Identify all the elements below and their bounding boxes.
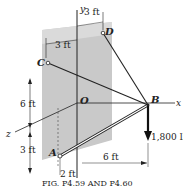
x-axis-label: x	[176, 98, 181, 108]
label-D: D	[104, 26, 114, 37]
dim-top-left: 3 ft	[55, 40, 71, 50]
figure-caption: FIG. P4.59 AND P4.60	[42, 179, 133, 187]
label-C: C	[37, 57, 45, 68]
label-A: A	[48, 147, 57, 158]
dim-vertical-upper: 6 ft	[20, 99, 36, 109]
load-label: 1,800 lb	[151, 132, 183, 142]
statics-diagram: y x z C D O B A 3 ft 3 ft 6 ft 3 ft 2 ft…	[0, 0, 183, 187]
point-A	[58, 154, 62, 158]
dim-bottom-horizontal: 6 ft	[103, 152, 119, 162]
dim-bottom-small: 2 ft	[60, 169, 76, 179]
z-axis-label: z	[5, 129, 11, 139]
point-C	[46, 61, 50, 65]
label-B: B	[150, 94, 159, 105]
dim-top-right: 3 ft	[84, 7, 100, 17]
label-O: O	[80, 95, 89, 106]
dim-vertical-lower: 3 ft	[20, 145, 36, 155]
